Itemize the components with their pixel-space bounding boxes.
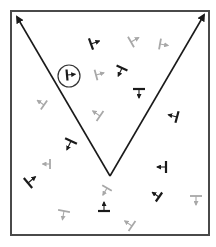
glyph-dark: [89, 35, 102, 49]
glyph-light: [159, 39, 169, 51]
glyph-dark: [113, 65, 128, 78]
glyph-light: [34, 96, 47, 110]
glyph-dark: [133, 89, 145, 98]
diagram-canvas: [0, 0, 216, 247]
highlight-circle: [58, 65, 80, 87]
glyph-light: [121, 216, 135, 231]
glyph-dark: [67, 69, 76, 81]
glyph-dark: [24, 172, 40, 188]
glyph-layer: [24, 32, 202, 231]
glyph-light: [98, 185, 112, 198]
glyph-dark: [149, 188, 162, 202]
glyph-dark: [167, 109, 179, 123]
glyph-dark: [61, 138, 77, 152]
glyph-light: [128, 32, 142, 47]
glyph-light: [43, 159, 51, 169]
glyph-dark: [157, 161, 166, 173]
glyph-light: [57, 210, 70, 221]
glyph-light: [95, 68, 106, 81]
frame-border: [11, 11, 209, 235]
glyph-dark: [98, 202, 110, 211]
left-arrow-line: [17, 17, 110, 176]
glyph-light: [190, 196, 202, 205]
glyph-light: [89, 106, 103, 121]
right-arrow-line: [110, 15, 204, 176]
v-arrows: [17, 15, 204, 176]
